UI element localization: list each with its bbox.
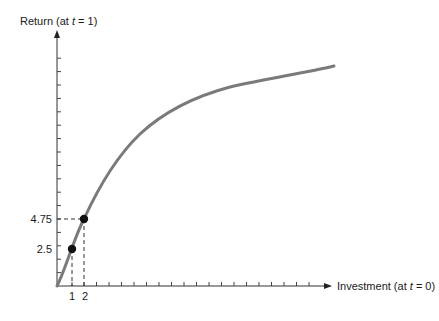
point-2 (80, 215, 88, 223)
y-axis (54, 30, 61, 286)
y-axis-title: Return (at t = 1) (20, 15, 97, 27)
x-axis-title: Investment (at t = 0) (337, 280, 435, 292)
investment-return-chart: 4.75 2.5 1 2 Return (at t = 1) Investmen… (0, 0, 439, 321)
y-tick-label-2-5: 2.5 (37, 243, 52, 255)
x-axis (57, 282, 332, 289)
x-tick-label-2: 2 (82, 290, 88, 302)
point-1 (68, 245, 76, 253)
y-axis-arrow-icon (54, 30, 60, 38)
return-curve (57, 66, 334, 286)
x-axis-arrow-icon (324, 283, 332, 289)
x-tick-label-1: 1 (69, 290, 75, 302)
y-tick-label-4-75: 4.75 (31, 213, 52, 225)
